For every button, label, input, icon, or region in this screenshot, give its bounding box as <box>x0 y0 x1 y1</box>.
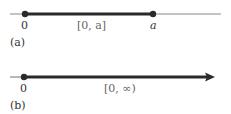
caption-b: (b) <box>10 100 26 111</box>
closed-endpoint-0-b <box>21 74 27 80</box>
closed-endpoint-a <box>150 11 156 17</box>
interval-label-a: [0, a] <box>77 20 106 31</box>
origin-label-a: 0 <box>21 20 28 31</box>
closed-endpoint-0-a <box>22 11 28 17</box>
interval-label-b: [0, ∞) <box>104 83 136 94</box>
origin-label-b: 0 <box>20 83 27 94</box>
endpoint-label-a: a <box>150 20 157 31</box>
number-lines <box>0 0 231 114</box>
caption-a: (a) <box>10 37 25 48</box>
